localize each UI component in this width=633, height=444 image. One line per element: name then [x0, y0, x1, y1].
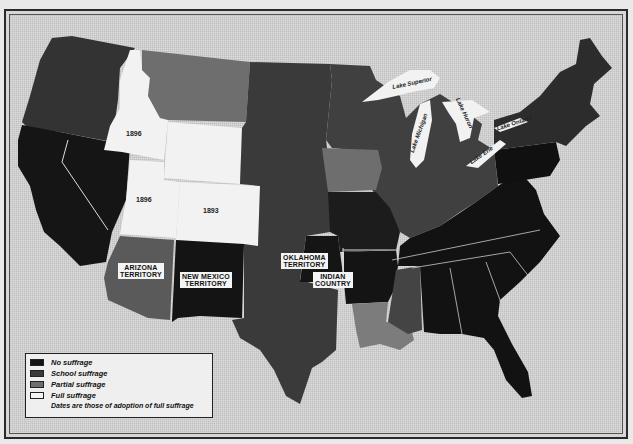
label-new-mexico-line1: NEW MEXICO [182, 273, 230, 280]
map-legend: No suffrage School suffrage Partial suff… [25, 353, 213, 418]
year-idaho: 1896 [126, 130, 142, 137]
legend-item-school-suffrage: School suffrage [30, 368, 208, 379]
year-colorado: 1893 [203, 207, 219, 214]
legend-label: Full suffrage [51, 391, 96, 400]
label-arizona-line2: TERRITORY [120, 271, 162, 278]
label-indian-line2: COUNTRY [315, 280, 351, 287]
year-utah: 1896 [136, 196, 152, 203]
label-new-mexico-territory: NEW MEXICO TERRITORY [180, 272, 232, 288]
swatch-no-suffrage [30, 359, 44, 366]
legend-label: Partial suffrage [51, 380, 105, 389]
region-iowa [322, 148, 382, 192]
region-montana [142, 50, 250, 122]
label-oklahoma-line2: TERRITORY [283, 261, 326, 268]
region-northeast [494, 38, 612, 150]
swatch-full-suffrage [30, 392, 44, 399]
label-oklahoma-territory: OKLAHOMA TERRITORY [281, 253, 328, 269]
label-arizona-territory: ARIZONA TERRITORY [118, 263, 164, 279]
label-new-mexico-line2: TERRITORY [182, 280, 230, 287]
region-wyoming [164, 122, 242, 184]
legend-label: No suffrage [51, 358, 93, 367]
legend-item-partial-suffrage: Partial suffrage [30, 379, 208, 390]
region-colorado [176, 182, 260, 246]
label-arizona-line1: ARIZONA [120, 264, 162, 271]
swatch-school-suffrage [30, 370, 44, 377]
legend-item-no-suffrage: No suffrage [30, 357, 208, 368]
label-indian-country: INDIAN COUNTRY [313, 272, 353, 288]
swatch-partial-suffrage [30, 381, 44, 388]
legend-item-full-suffrage: Full suffrage [30, 390, 208, 401]
label-oklahoma-line1: OKLAHOMA [283, 254, 326, 261]
label-indian-line1: INDIAN [315, 273, 351, 280]
legend-note: Dates are those of adoption of full suff… [51, 402, 208, 409]
legend-label: School suffrage [51, 369, 108, 378]
